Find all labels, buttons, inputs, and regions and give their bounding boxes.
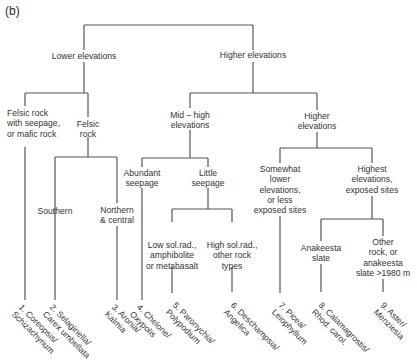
- node-southern: Southern: [38, 206, 73, 216]
- node-lower-elevations: Lower elevations: [52, 51, 117, 61]
- node-highest-elevations: Highest elevations, exposed sites: [346, 164, 399, 195]
- node-felsic-seepage: Felsic rock with seepage, or mafic rock: [7, 108, 60, 139]
- node-low-sol-rad: Low sol.rad., amphibolite or metabasalt: [146, 240, 198, 271]
- node-mid-high-elevations: Mid – high elevations: [170, 110, 210, 131]
- node-somewhat-lower: Somewhat lower elevations, or less expos…: [254, 164, 307, 215]
- node-northern-central: Northern & central: [100, 205, 134, 226]
- node-high-sol-rad: High sol.rad., other rock types: [207, 240, 258, 271]
- node-higher-elevations: Higher elevations: [220, 50, 286, 60]
- node-other-rock: Other rock, or anakeesta slate >1980 m: [356, 237, 410, 278]
- node-higher-elevations-2: Higher elevations: [298, 111, 337, 132]
- node-little-seepage: Little seepage: [192, 168, 225, 189]
- node-abundant-seepage: Abundant seepage: [124, 168, 161, 189]
- node-anakeesta-slate: Anakeesta slate: [301, 243, 342, 264]
- node-felsic-rock: Felsic rock: [77, 119, 99, 140]
